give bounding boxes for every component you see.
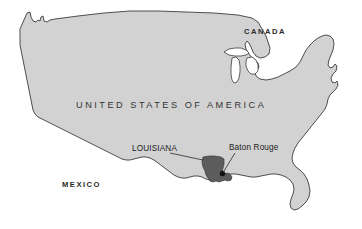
label-united-states: UNITED STATES OF AMERICA (76, 101, 266, 110)
label-mexico: MEXICO (62, 181, 101, 189)
label-louisiana: LOUISIANA (132, 145, 177, 153)
map-graphic (0, 0, 362, 229)
label-baton-rouge: Baton Rouge (229, 144, 278, 152)
baton-rouge-city-dot (220, 171, 225, 176)
label-canada: CANADA (244, 28, 286, 36)
us-map: CANADA UNITED STATES OF AMERICA MEXICO L… (0, 0, 362, 229)
lake-michigan-shape (231, 57, 240, 83)
